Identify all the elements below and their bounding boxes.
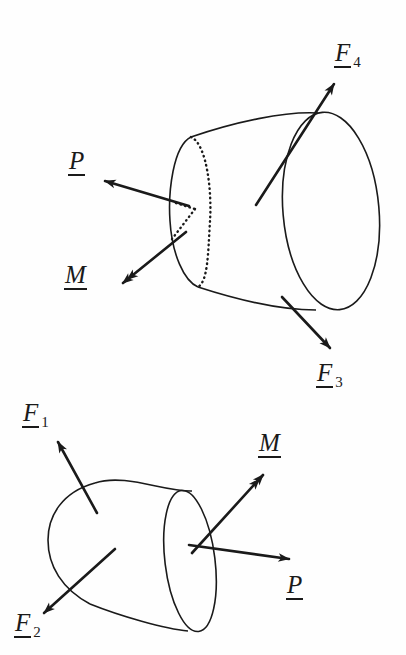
- label-f1-subscript: 1: [41, 415, 49, 430]
- label-upper-p: P: [68, 148, 85, 176]
- force-f4-arrow: [256, 84, 334, 205]
- label-f4-symbol: F: [334, 40, 351, 68]
- upper-cut-face-hidden-arc: [191, 137, 210, 287]
- lower-moment-m-arrow: [192, 475, 263, 553]
- label-lower-p-symbol: P: [286, 572, 303, 600]
- label-f1-symbol: F: [22, 400, 39, 428]
- upper-base-ellipse: [275, 108, 388, 314]
- label-f2-symbol: F: [14, 610, 31, 638]
- label-lower-m: M: [258, 430, 281, 458]
- label-f4-subscript: 4: [353, 55, 361, 70]
- lower-bottom-slant-edge: [90, 604, 188, 631]
- label-f1: F1: [22, 400, 47, 428]
- label-f3-symbol: F: [316, 360, 333, 388]
- label-upper-p-symbol: P: [68, 148, 85, 176]
- figure-root: F4 P M F3 F1 M P F2: [0, 0, 406, 655]
- force-f1-arrow: [58, 442, 97, 513]
- lower-cut-face-ellipse: [157, 487, 224, 634]
- upper-top-slant-edge: [191, 113, 318, 137]
- label-lower-m-symbol: M: [258, 430, 281, 458]
- lower-force-p-arrow: [189, 545, 289, 559]
- label-f3-subscript: 3: [335, 375, 343, 390]
- lower-body-group: [44, 442, 289, 635]
- lower-top-slant-edge: [95, 480, 192, 491]
- label-upper-m-symbol: M: [64, 262, 87, 290]
- mechanics-diagram-canvas: [0, 0, 406, 655]
- label-upper-m: M: [64, 262, 87, 290]
- label-f2: F2: [14, 610, 39, 638]
- label-f2-subscript: 2: [33, 625, 41, 640]
- force-f2-arrow: [44, 549, 115, 613]
- upper-cut-face-visible-arc: [170, 137, 198, 287]
- label-f3: F3: [316, 360, 341, 388]
- lower-rounded-nose-arc: [48, 483, 95, 604]
- upper-body-group: [105, 84, 387, 348]
- label-f4: F4: [334, 40, 359, 68]
- upper-bottom-slant-edge: [198, 287, 316, 310]
- label-lower-p: P: [286, 572, 303, 600]
